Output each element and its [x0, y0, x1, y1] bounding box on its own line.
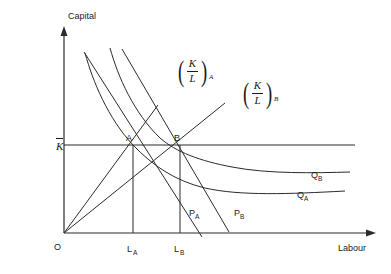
capital-constraint-overline [56, 138, 63, 139]
labour-b-main: L [174, 244, 179, 254]
isoquant-a-main: Q [297, 190, 304, 200]
ratio-b-left-paren: ( [243, 81, 249, 106]
labour-b-tick-label: L B [174, 244, 184, 256]
isoquant-a-sub: A [304, 195, 309, 202]
point-label-a: A [126, 133, 132, 143]
isoquant-diagram: Capital Labour O A B L A L B P A P B Q [0, 0, 391, 274]
y-axis-title: Capital [68, 11, 96, 21]
labour-b-sub: B [180, 249, 184, 256]
ratio-a-subscript: A [209, 74, 213, 84]
point-label-b: B [174, 133, 180, 143]
isoquant-label-b: Q B [311, 170, 322, 182]
ratio-a-left-paren: ( [178, 59, 184, 84]
capital-labour-ratio-b-label: ( K L ) B [241, 80, 278, 106]
ratio-b-numerator: K [254, 80, 261, 92]
labour-a-main: L [127, 244, 132, 254]
ratio-a-numerator: K [189, 58, 196, 70]
ratio-b-denominator: L [254, 95, 260, 107]
capital-constraint-letter: K [56, 140, 63, 152]
ratio-a-right-paren: ) [201, 59, 207, 84]
labour-a-sub: A [133, 249, 138, 256]
ratio-b-right-paren: ) [266, 81, 272, 106]
diagram-canvas: Capital Labour O A B L A L B P A P B Q [0, 0, 391, 274]
ratio-b-subscript: B [274, 96, 278, 106]
isoquant-label-a: Q A [297, 190, 309, 202]
capital-constraint-label: K [56, 138, 63, 152]
ratio-a-fraction: K L [186, 58, 199, 84]
labour-a-tick-label: L A [127, 244, 138, 256]
isoquant-curve-b [110, 48, 350, 173]
x-axis-arrowhead [366, 230, 376, 237]
isocost-label-a: P A [189, 208, 200, 220]
y-axis-arrowhead [61, 26, 68, 36]
isocost-label-b: P B [234, 208, 244, 220]
expansion-ray-b [64, 103, 225, 233]
capital-labour-ratio-a-label: ( K L ) A [176, 58, 213, 84]
ratio-b-fraction: K L [251, 80, 264, 106]
x-axis-title: Labour [338, 243, 366, 253]
origin-label: O [54, 242, 61, 252]
isoquant-b-sub: B [318, 175, 322, 182]
isocost-a-sub: A [195, 213, 200, 220]
isoquant-b-main: Q [311, 170, 318, 180]
ratio-a-denominator: L [189, 73, 195, 85]
isocost-b-sub: B [240, 213, 244, 220]
